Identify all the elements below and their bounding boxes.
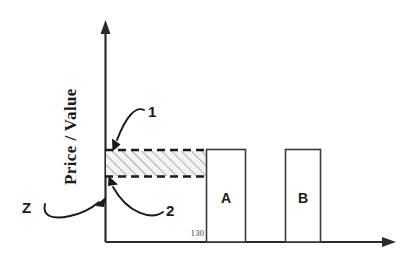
callout-z-leader-curve — [44, 202, 99, 218]
callout-1-group: 1 — [112, 103, 156, 152]
reference-number-130: 130 — [191, 228, 205, 238]
y-axis-label-text: Price / Value — [61, 88, 80, 185]
patent-figure-diagram: Price / Value A B 130 1 2 Z — [0, 0, 411, 265]
axis-group — [101, 20, 397, 247]
bar-b-label: B — [298, 190, 308, 206]
bar-a-label: A — [221, 190, 231, 206]
callout-2-label: 2 — [166, 202, 174, 219]
callout-1-label: 1 — [148, 103, 156, 120]
callout-1-leader-curve — [117, 109, 144, 140]
y-axis-label: Price / Value — [61, 88, 80, 185]
callout-z-label: Z — [22, 199, 31, 216]
figure-canvas: Price / Value A B 130 1 2 Z — [0, 0, 411, 265]
shaded-band-region — [106, 151, 206, 176]
callout-2-group: 2 — [108, 176, 174, 219]
y-axis-arrow-icon — [101, 20, 111, 34]
callout-2-leader-curve — [113, 187, 163, 215]
x-axis-arrow-icon — [382, 237, 396, 247]
callout-z-group: Z — [22, 197, 106, 218]
